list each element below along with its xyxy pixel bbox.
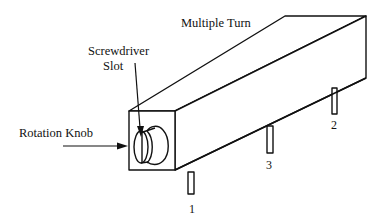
pin-3: 3 xyxy=(266,126,273,172)
rotation-knob-arrow xyxy=(63,143,128,150)
diagram-title: Multiple Turn xyxy=(181,16,252,30)
pin-1: 1 xyxy=(188,172,195,216)
pin-1-label: 1 xyxy=(189,202,195,216)
rotation-knob-label: Rotation Knob xyxy=(19,126,93,140)
screwdriver-slot-label-line2: Slot xyxy=(103,59,124,73)
pin-3-label: 3 xyxy=(266,158,272,172)
screwdriver-slot-label-line1: Screwdriver xyxy=(88,44,150,58)
pin-2-label: 2 xyxy=(331,118,337,132)
multiple-turn-potentiometer-diagram: Multiple Turn 1 3 2 Screwdriver Slot xyxy=(0,0,387,220)
